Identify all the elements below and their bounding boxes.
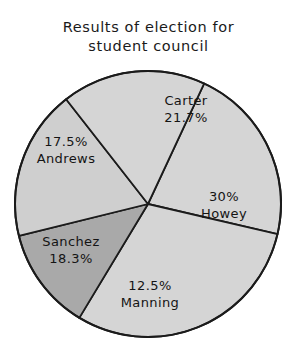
pie-chart-graphic: [0, 0, 297, 358]
pie-slice-layer: [15, 71, 281, 337]
pie-chart-figure: Results of election for student council …: [0, 0, 297, 358]
